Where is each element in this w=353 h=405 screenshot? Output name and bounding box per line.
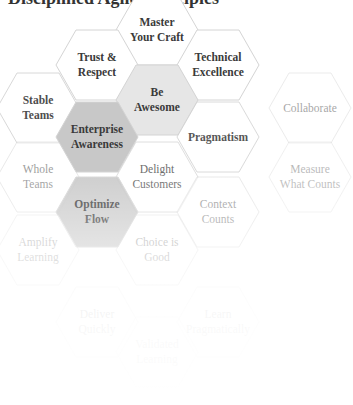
hexagon-label-validated-learning: ValidatedLearning: [135, 337, 178, 367]
label-line-1: Be: [134, 85, 180, 100]
label-line-1: Enterprise: [71, 122, 123, 137]
hexagon-label-amplify-learning: AmplifyLearning: [17, 235, 59, 265]
label-line-1: Trust &: [77, 50, 116, 65]
hexagon-label-deliver: DeliverQuickly: [78, 307, 115, 337]
label-line-2: Quickly: [78, 322, 115, 337]
hexagon-label-learn: LearnPragmatically: [186, 307, 250, 337]
label-line-2: Good: [135, 250, 178, 265]
label-line-2: Counts: [200, 212, 236, 227]
label-line-1: Choice is: [135, 235, 178, 250]
label-line-2: What Counts: [280, 177, 340, 192]
label-line-1: Validated: [135, 337, 178, 352]
label-line-2: Teams: [23, 177, 54, 192]
label-line-1: Deliver: [78, 307, 115, 322]
label-line-2: Flow: [74, 212, 119, 227]
label-line-2: Customers: [132, 177, 181, 192]
label-line-1: Context: [200, 197, 236, 212]
label-line-2: Excellence: [192, 65, 244, 80]
hexagon-label-delight-customers: DelightCustomers: [132, 162, 181, 192]
hexagon-label-trust-respect: Trust &Respect: [77, 50, 116, 80]
hexagon-label-measure-what-counts: MeasureWhat Counts: [280, 162, 340, 192]
hexagon-label-pragmatism: Pragmatism: [188, 130, 248, 145]
label-line-1: Whole: [23, 162, 54, 177]
label-line-2: Awareness: [71, 137, 123, 152]
label-line-2: Pragmatically: [186, 322, 250, 337]
label-line-2: Your Craft: [130, 30, 184, 45]
label-line-1: Pragmatism: [188, 130, 248, 145]
label-line-1: Delight: [132, 162, 181, 177]
hexagon-label-master-your-craft: MasterYour Craft: [130, 15, 184, 45]
hexagon-label-context-counts: ContextCounts: [200, 197, 236, 227]
label-line-2: Learning: [135, 352, 178, 367]
label-line-1: Master: [130, 15, 184, 30]
hexagon-label-choice-is-good: Choice isGood: [135, 235, 178, 265]
label-line-1: Collaborate: [283, 101, 337, 116]
label-line-2: Teams: [22, 108, 54, 123]
label-line-1: Technical: [192, 50, 244, 65]
label-line-2: Awesome: [134, 100, 180, 115]
label-line-1: Amplify: [17, 235, 59, 250]
hexagon-label-be-awesome: BeAwesome: [134, 85, 180, 115]
hexagon-label-optimize-flow: OptimizeFlow: [74, 197, 119, 227]
label-line-2: Learning: [17, 250, 59, 265]
label-line-1: Measure: [280, 162, 340, 177]
label-line-1: Learn: [186, 307, 250, 322]
hexagon-label-enterprise-awareness: EnterpriseAwareness: [71, 122, 123, 152]
hexagon-label-technical-excellence: TechnicalExcellence: [192, 50, 244, 80]
label-line-1: Optimize: [74, 197, 119, 212]
hexagon-label-whole-teams: WholeTeams: [23, 162, 54, 192]
hexagon-label-collaborate: Collaborate: [283, 101, 337, 116]
label-line-2: Respect: [77, 65, 116, 80]
hexagon-label-stable-teams: StableTeams: [22, 93, 54, 123]
label-line-1: Stable: [22, 93, 54, 108]
